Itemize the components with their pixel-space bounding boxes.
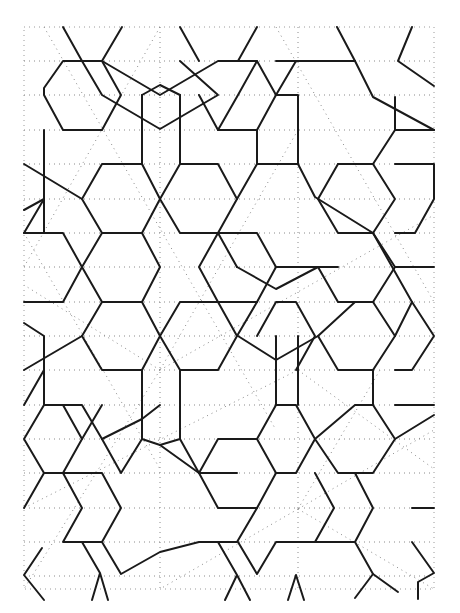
pattern-segment [355,574,373,598]
pattern-segment [218,61,257,130]
pattern-segment [24,336,82,370]
pattern-segment [63,27,218,129]
pattern-segment [24,405,82,473]
pattern-segment [288,575,304,600]
pattern-segment [218,542,250,600]
pattern-segment [257,302,315,370]
pattern-segment [24,548,44,600]
pattern-segment [24,267,82,302]
pattern-segment [142,370,180,445]
pattern-segment [238,27,257,61]
pattern-segment [395,415,434,439]
pattern-segment [237,267,318,289]
pattern-segment [276,61,296,95]
pattern-segment [82,542,108,600]
guide-line [298,370,380,509]
guide-line [298,430,434,509]
pattern-segment [338,130,434,164]
pattern-segment [24,370,44,405]
guide-line [160,509,298,589]
pattern-segment [82,302,102,336]
pattern-segment [218,233,237,267]
pattern-segment [24,473,44,508]
geometric-pattern-figure [0,0,460,613]
pattern-segment [180,439,199,473]
pattern-segment [102,508,257,574]
pattern-segment [63,473,121,542]
pattern-segment [412,542,434,599]
guide-line [160,130,298,370]
pattern-segment [102,27,122,61]
pattern-segment [160,445,237,473]
pattern-lines [24,27,434,600]
pattern-segment [160,302,237,370]
pattern-segment [82,302,160,370]
pattern-segment [160,164,237,233]
pattern-segment [257,405,315,473]
pattern-segment [180,27,199,61]
pattern-segment [82,233,160,302]
pattern-segment [102,405,160,439]
pattern-segment [102,439,142,473]
pattern-segment [355,542,398,592]
pattern-segment [82,164,160,233]
pattern-segment [63,405,102,439]
pattern-segment [398,27,434,86]
pattern-segment [237,302,257,336]
pattern-segment [238,473,334,574]
pattern-segment [24,233,82,267]
pattern-segment [238,302,355,360]
guide-line [298,370,434,469]
pattern-segment [337,27,355,61]
